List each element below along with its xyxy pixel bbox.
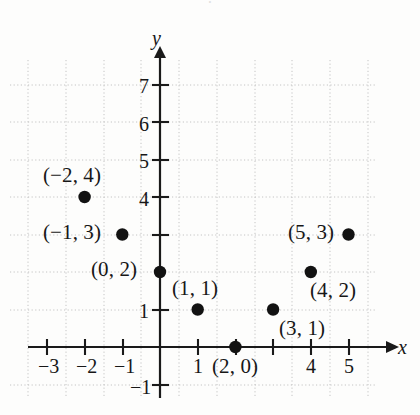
y-tick-label-3: 4 xyxy=(139,189,149,209)
data-point xyxy=(342,228,354,240)
y-tick-label-5: −1 xyxy=(130,377,151,397)
data-point xyxy=(78,191,90,203)
x-tick-label-5: 5 xyxy=(344,356,354,376)
x-axis-label: x xyxy=(398,337,407,357)
x-tick-label-2: −1 xyxy=(114,356,135,376)
point-label-1-1: (1, 1) xyxy=(172,278,218,299)
data-point xyxy=(116,228,128,240)
x-tick-label-3: 1 xyxy=(193,356,203,376)
point-label-3-1: (3, 1) xyxy=(279,318,325,339)
x-axis xyxy=(28,341,399,353)
point-label-5-3: (5, 3) xyxy=(288,222,334,243)
data-point xyxy=(305,266,317,278)
x-tick-label-4: 4 xyxy=(306,356,316,376)
data-point xyxy=(154,266,166,278)
y-axis xyxy=(154,46,166,398)
y-tick-label-1: 6 xyxy=(139,114,149,134)
data-point xyxy=(229,341,241,353)
y-axis-label: y xyxy=(152,28,161,48)
y-tick-label-4: 1 xyxy=(139,301,149,321)
y-tick-label-2: 5 xyxy=(139,151,149,171)
x-tick-label-0: −3 xyxy=(38,356,59,376)
coordinate-plane-figure: · xyxy=(0,0,420,415)
data-point xyxy=(267,303,279,315)
graph-canvas xyxy=(0,0,420,415)
data-point xyxy=(192,303,204,315)
point-label-neg1-3: (−1, 3) xyxy=(43,222,101,243)
point-label-2-0: (2, 0) xyxy=(212,356,258,377)
point-label-4-2: (4, 2) xyxy=(310,280,356,301)
point-label-0-2: (0, 2) xyxy=(91,259,137,280)
y-tick-label-0: 7 xyxy=(139,76,149,96)
point-label-neg2-4: (−2, 4) xyxy=(43,165,101,186)
x-tick-label-1: −2 xyxy=(76,356,97,376)
